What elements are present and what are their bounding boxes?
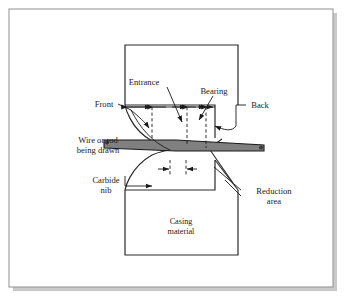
figure-page: Entrance Bearing Front Back Wire or rod … bbox=[0, 0, 346, 300]
label-carbide-line2: nib bbox=[101, 185, 112, 195]
label-wire-line2: being drawn bbox=[77, 145, 120, 155]
label-reduction-line2: area bbox=[267, 196, 281, 206]
die-cross-section-figure: Entrance Bearing Front Back Wire or rod … bbox=[0, 0, 346, 300]
label-back: Back bbox=[251, 100, 269, 110]
label-carbide-line1: Carbide bbox=[92, 175, 119, 185]
label-reduction-line1: Reduction bbox=[256, 186, 292, 196]
label-casing-line1: Casing bbox=[170, 217, 193, 226]
label-bearing: Bearing bbox=[200, 86, 228, 96]
label-front: Front bbox=[95, 99, 114, 109]
wire-right-end-cap bbox=[260, 146, 263, 149]
label-wire-line1: Wire or rod bbox=[78, 135, 118, 145]
label-entrance: Entrance bbox=[129, 77, 160, 87]
label-casing-line2: material bbox=[168, 227, 196, 236]
